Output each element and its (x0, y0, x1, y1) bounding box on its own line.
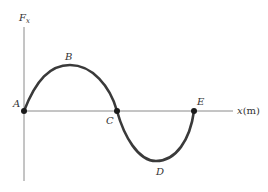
point-b-label: B (64, 51, 72, 62)
x-axis-label: x(m) (237, 105, 260, 116)
force-position-diagram: Fx x(m) A B C D E (0, 0, 268, 192)
point-a-marker (21, 108, 27, 114)
y-axis-label: Fx (18, 12, 30, 25)
point-e-marker (191, 108, 197, 114)
point-e-label: E (196, 96, 205, 107)
point-c-label: C (106, 115, 114, 126)
point-a-label: A (12, 98, 20, 109)
point-d-label: D (155, 166, 164, 177)
force-curve (24, 65, 194, 161)
point-c-marker (114, 108, 120, 114)
